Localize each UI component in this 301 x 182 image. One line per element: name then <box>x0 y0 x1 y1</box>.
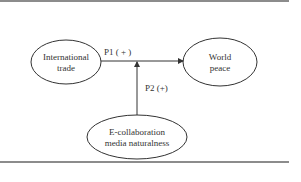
node-world-peace: World peace <box>183 38 257 86</box>
node-international-trade: International trade <box>31 40 101 84</box>
node-e-collaboration: E-collaboration media naturalness <box>87 115 187 159</box>
node-label-line2: media naturalness <box>105 138 170 148</box>
node-label-line1: International <box>43 52 89 62</box>
node-label-line2: trade <box>57 63 75 73</box>
model-diagram: International trade World peace E-collab… <box>0 0 301 182</box>
edge-p2-label: P2 (+) <box>145 83 168 93</box>
edge-p1-label: P1 ( + ) <box>104 47 131 57</box>
node-label-line1: World <box>209 52 232 62</box>
node-label-line2: peace <box>210 63 230 73</box>
node-label-line1: E-collaboration <box>109 127 165 137</box>
